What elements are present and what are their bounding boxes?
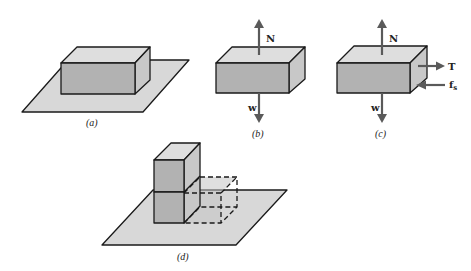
weight-force-label: w [247, 102, 257, 113]
caption-a: (a) [86, 117, 98, 129]
normal-force-label: N [266, 33, 275, 44]
panel-b: N w (b) [216, 19, 305, 140]
caption-b: (b) [252, 128, 264, 140]
friction-force-label: fs [449, 79, 457, 92]
block-front-face [216, 63, 289, 93]
block-front-face [337, 63, 410, 93]
weight-force-label: w [370, 102, 380, 113]
panel-a: (a) [22, 47, 189, 129]
tension-force-label: T [448, 61, 456, 72]
caption-c: (c) [375, 128, 387, 140]
normal-force-label: N [389, 33, 398, 44]
panel-c: N T fs w (c) [337, 19, 457, 140]
lower-cube-front-face [154, 192, 184, 223]
figure-canvas: (a) N w (b) N T [0, 0, 471, 271]
upper-cube-front-face [154, 160, 184, 192]
panel-d: (d) [102, 143, 287, 263]
caption-d: (d) [177, 251, 189, 263]
block-front-face [61, 63, 135, 94]
